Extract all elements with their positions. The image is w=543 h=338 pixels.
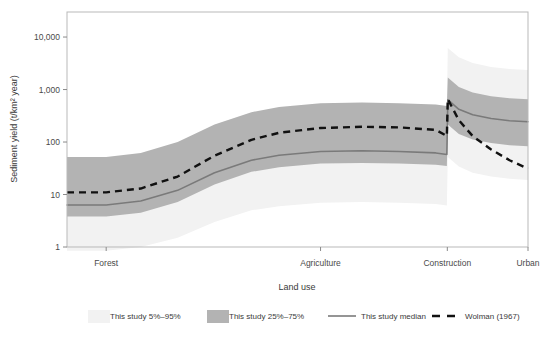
chart-legend: This study 5%–95%This study 25%–75%This … <box>88 310 520 323</box>
legend-swatch-band75 <box>207 310 229 323</box>
legend-swatch-band95 <box>88 310 110 323</box>
x-tick-label: Urban <box>516 258 539 268</box>
legend-label-median: This study median <box>361 312 426 321</box>
y-axis-title: Sediment yield (t/km² year) <box>9 75 19 183</box>
x-tick-label: Agriculture <box>300 258 341 268</box>
chart-figure: 1101001,00010,000 ForestAgricultureConst… <box>0 0 543 338</box>
legend-label-wolman: Wolman (1967) <box>465 312 520 321</box>
y-tick-label: 100 <box>46 137 60 147</box>
sediment-yield-chart: 1101001,00010,000 ForestAgricultureConst… <box>0 0 543 338</box>
x-axis: ForestAgricultureConstructionUrban <box>94 247 540 268</box>
y-tick-label: 10 <box>51 190 61 200</box>
x-tick-label: Forest <box>94 258 119 268</box>
y-axis: 1101001,00010,000 <box>34 32 67 252</box>
legend-label-band95: This study 5%–95% <box>110 312 181 321</box>
x-tick-label: Construction <box>423 258 471 268</box>
legend-label-band75: This study 25%–75% <box>229 312 304 321</box>
y-tick-label: 1 <box>55 242 60 252</box>
x-axis-title: Land use <box>278 282 315 292</box>
y-tick-label: 1,000 <box>39 85 61 95</box>
y-tick-label: 10,000 <box>34 32 60 42</box>
